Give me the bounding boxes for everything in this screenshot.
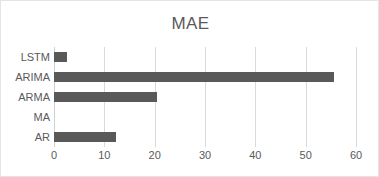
y-label-ma: MA — [1, 107, 50, 127]
bar-row — [54, 87, 356, 107]
plot-area — [54, 47, 356, 147]
x-tick-30: 30 — [199, 149, 211, 161]
x-tick-40: 40 — [249, 149, 261, 161]
bar-row — [54, 47, 356, 67]
x-axis-tick-labels: 0102030405060 — [54, 149, 356, 169]
bar-row — [54, 67, 356, 87]
bar-row — [54, 107, 356, 127]
y-axis-category-labels: ARMAARMAARIMALSTM — [1, 47, 50, 147]
bar-arima — [54, 72, 334, 82]
x-tick-20: 20 — [149, 149, 161, 161]
bar-row — [54, 127, 356, 147]
x-tick-10: 10 — [98, 149, 110, 161]
y-label-lstm: LSTM — [1, 47, 50, 67]
chart-title: MAE — [1, 14, 379, 34]
bar-arma — [54, 92, 157, 102]
gridline-60 — [356, 47, 357, 147]
y-label-ar: AR — [1, 127, 50, 147]
y-label-arma: ARMA — [1, 87, 50, 107]
bar-ar — [54, 132, 116, 142]
x-tick-50: 50 — [300, 149, 312, 161]
chart-container: MAE ARMAARMAARIMALSTM 0102030405060 — [0, 0, 379, 177]
x-tick-0: 0 — [51, 149, 57, 161]
y-label-arima: ARIMA — [1, 67, 50, 87]
x-tick-60: 60 — [350, 149, 362, 161]
bar-lstm — [54, 52, 67, 62]
